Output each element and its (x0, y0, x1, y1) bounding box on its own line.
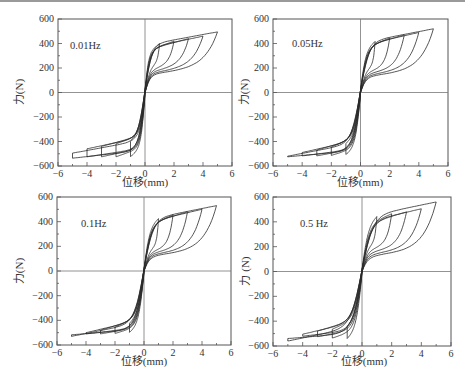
frequency-label: 0.5 Hz (300, 218, 328, 229)
x-tick-label: 2 (382, 349, 402, 359)
y-tick-label: −400 (239, 316, 269, 326)
x-tick-label: 6 (441, 349, 461, 359)
plot-area (0, 0, 465, 383)
x-tick-label: 0 (352, 349, 372, 359)
y-tick-label: 0 (239, 267, 269, 277)
x-tick-label: 4 (411, 349, 431, 359)
chart-panel-0.5hz: 0.5 Hz 力 (N) 位移(mm) 6004002000−200−400−6… (0, 0, 465, 383)
x-tick-label: −4 (293, 349, 313, 359)
x-tick-label: −2 (322, 349, 342, 359)
y-tick-label: −200 (239, 291, 269, 301)
x-tick-label: −6 (263, 349, 283, 359)
y-tick-label: 200 (239, 242, 269, 252)
y-tick-label: 400 (239, 217, 269, 227)
y-tick-label: 600 (239, 192, 269, 202)
